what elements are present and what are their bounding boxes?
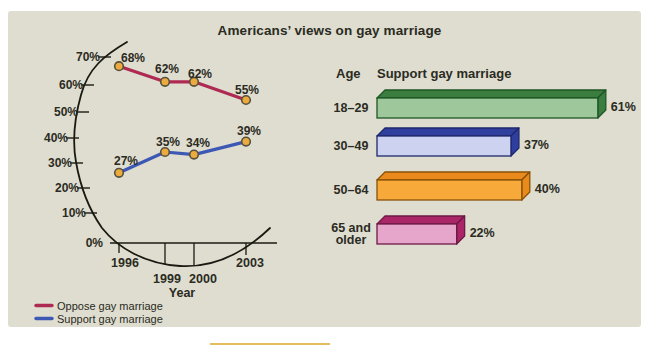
support-point-label: 27% bbox=[114, 154, 138, 168]
bar-front-face bbox=[377, 180, 522, 200]
bar-front-face bbox=[377, 136, 511, 156]
y-tick-label: 0% bbox=[86, 236, 104, 250]
bar-category-label: 65 andolder bbox=[331, 221, 371, 247]
y-tick-label: 30% bbox=[48, 156, 72, 170]
x-tick-label: 2003 bbox=[236, 256, 264, 270]
oppose-point-label: 62% bbox=[155, 62, 179, 76]
oppose-data-point bbox=[161, 78, 170, 87]
bar-value-label: 40% bbox=[535, 182, 560, 196]
bar-category-label: 18–29 bbox=[334, 101, 369, 115]
legend-label-support: Support gay marriage bbox=[57, 313, 163, 325]
bar-value-label: 22% bbox=[470, 226, 495, 240]
support-line bbox=[119, 142, 246, 173]
bar-top-face bbox=[377, 128, 519, 136]
bar-group: 61%18–29 bbox=[334, 90, 636, 118]
x-tick-label: 1996 bbox=[111, 256, 139, 270]
oppose-line bbox=[119, 66, 246, 100]
x-axis-title: Year bbox=[169, 286, 196, 300]
oppose-point-label: 68% bbox=[121, 51, 145, 65]
bar-value-label: 37% bbox=[524, 138, 549, 152]
y-tick-label: 50% bbox=[54, 105, 78, 119]
legend-label-oppose: Oppose gay marriage bbox=[57, 300, 163, 312]
bar-group: 37%30–49 bbox=[334, 128, 549, 156]
x-tick-label: 1999 bbox=[153, 272, 181, 286]
support-data-point bbox=[115, 169, 124, 178]
y-tick-label: 40% bbox=[44, 131, 68, 145]
bar-top-face bbox=[377, 90, 606, 98]
bottom-accent-line bbox=[210, 343, 330, 345]
bar-top-face bbox=[377, 216, 465, 224]
bar-top-face bbox=[377, 172, 530, 180]
bar-value-label: 61% bbox=[611, 100, 636, 114]
support-data-point bbox=[242, 137, 251, 146]
oppose-point-label: 55% bbox=[235, 83, 259, 97]
support-data-point bbox=[190, 150, 199, 159]
bar-category-label: 50–64 bbox=[334, 183, 369, 197]
bar-group: 40%50–64 bbox=[334, 172, 560, 200]
support-point-label: 35% bbox=[156, 135, 180, 149]
y-tick-label: 20% bbox=[55, 181, 79, 195]
x-tick-label: 2000 bbox=[189, 272, 217, 286]
support-point-label: 39% bbox=[237, 124, 261, 138]
y-tick-label: 70% bbox=[76, 50, 100, 64]
bar-front-face bbox=[377, 98, 598, 118]
bar-category-label: 30–49 bbox=[334, 139, 369, 153]
bar-front-face bbox=[377, 224, 457, 244]
support-point-label: 34% bbox=[186, 136, 210, 150]
bar-group: 22%65 andolder bbox=[331, 216, 494, 247]
y-tick-label: 60% bbox=[59, 78, 83, 92]
charts-canvas: 70%60%50%40%30%20%10%0%1996199920002003Y… bbox=[0, 0, 659, 346]
y-tick-label: 10% bbox=[62, 206, 86, 220]
oppose-point-label: 62% bbox=[188, 67, 212, 81]
